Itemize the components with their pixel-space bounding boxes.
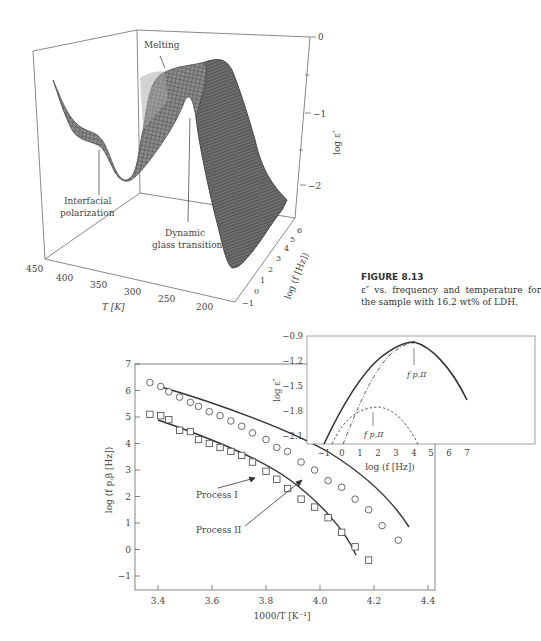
- z-tick: −2: [308, 181, 321, 191]
- data-point: [352, 544, 358, 550]
- data-point: [157, 383, 164, 390]
- data-point: [217, 412, 224, 419]
- z-axis-label: log ε″: [332, 129, 342, 155]
- data-point: [379, 522, 386, 529]
- svg-text:7: 7: [125, 359, 131, 369]
- figure-caption-text: ε″ vs. frequency and temperature for the…: [361, 284, 541, 308]
- svg-text:400: 400: [56, 273, 73, 283]
- annotation-dynamic: Dynamic: [165, 228, 205, 238]
- inset-y-ticks: −0.9 −1.2 −1.5 −1.8 −2.1: [282, 331, 303, 441]
- data-point: [176, 427, 182, 433]
- data-point: [298, 459, 305, 466]
- annotation-interfacial: Interfacial: [64, 196, 112, 206]
- svg-text:350: 350: [90, 280, 107, 290]
- inset-x-axis-label: log (f [Hz]): [365, 462, 415, 472]
- svg-text:300: 300: [124, 287, 141, 297]
- svg-text:−1.8: −1.8: [282, 406, 303, 416]
- inset-x-ticks: −1 0 1 2 3 4 5 6 7: [318, 448, 470, 458]
- svg-text:−1.5: −1.5: [282, 381, 303, 391]
- svg-text:6: 6: [125, 386, 131, 396]
- svg-text:200: 200: [196, 302, 213, 312]
- svg-text:3: 3: [125, 465, 131, 475]
- data-point: [365, 557, 371, 563]
- svg-text:3.8: 3.8: [259, 596, 274, 606]
- svg-text:3: 3: [276, 254, 281, 263]
- annotation-polarization: polarization: [60, 208, 115, 218]
- svg-text:4: 4: [411, 448, 416, 458]
- x-ticks: 3.4 3.6 3.8 4.0 4.2 4.4: [151, 596, 436, 606]
- svg-text:−2.1: −2.1: [282, 431, 303, 441]
- svg-text:4.4: 4.4: [421, 596, 436, 606]
- svg-text:4: 4: [125, 439, 131, 449]
- data-point: [263, 436, 270, 443]
- data-point: [249, 430, 256, 437]
- z-tick: 0: [318, 32, 324, 42]
- data-point: [206, 408, 213, 415]
- data-point: [274, 444, 281, 451]
- data-point: [217, 444, 223, 450]
- svg-text:450: 450: [26, 264, 43, 274]
- svg-text:−1: −1: [118, 571, 131, 581]
- label-process-2: Process II: [196, 525, 242, 535]
- svg-text:4: 4: [284, 244, 289, 253]
- data-point: [325, 515, 331, 521]
- svg-text:1: 1: [357, 448, 362, 458]
- data-point: [206, 440, 212, 446]
- svg-text:6: 6: [297, 226, 302, 235]
- svg-text:6: 6: [446, 448, 451, 458]
- t-axis-label: T [K]: [102, 302, 125, 312]
- figure-caption-label: FIGURE 8.13: [361, 272, 424, 282]
- data-point: [187, 399, 194, 406]
- data-point: [239, 452, 245, 458]
- data-point: [158, 412, 164, 418]
- svg-text:4.0: 4.0: [313, 596, 328, 606]
- data-point: [147, 411, 153, 417]
- svg-text:250: 250: [158, 294, 175, 304]
- f-axis-label: log (f [Hz]): [283, 251, 311, 301]
- inset-peak-label-2: f p,II: [363, 430, 384, 439]
- svg-text:−1.2: −1.2: [282, 356, 303, 366]
- svg-text:3.6: 3.6: [205, 596, 220, 606]
- surface-plot-3d: 0 −1 −2 log ε″ Melting Interfacial polar…: [0, 0, 540, 320]
- svg-text:3: 3: [393, 448, 398, 458]
- svg-text:−0.9: −0.9: [282, 331, 303, 341]
- svg-text:1: 1: [260, 276, 265, 285]
- data-point: [325, 477, 332, 484]
- svg-text:4.2: 4.2: [367, 596, 381, 606]
- svg-text:3.4: 3.4: [151, 596, 166, 606]
- svg-text:5: 5: [290, 235, 295, 244]
- svg-text:7: 7: [464, 448, 469, 458]
- x-axis-label: 1000/T [K⁻¹]: [254, 611, 311, 621]
- data-point: [365, 506, 372, 513]
- data-point: [284, 485, 290, 491]
- data-point: [249, 459, 255, 465]
- data-point: [147, 379, 154, 386]
- data-point: [195, 403, 202, 410]
- svg-text:−1: −1: [318, 448, 331, 458]
- svg-text:2: 2: [125, 492, 131, 502]
- data-point: [311, 504, 317, 510]
- data-point: [228, 448, 234, 454]
- data-point: [228, 418, 235, 425]
- svg-text:5: 5: [428, 448, 433, 458]
- data-point: [284, 448, 291, 455]
- svg-text:0: 0: [254, 287, 259, 296]
- inset-y-axis-label: log ε″: [272, 378, 282, 402]
- annotation-glass-transition: glass transition: [152, 240, 223, 250]
- data-point: [338, 484, 345, 491]
- svg-text:0: 0: [125, 545, 131, 555]
- z-tick: −1: [313, 109, 326, 119]
- svg-text:2: 2: [375, 448, 380, 458]
- inset-peak-label-1: f p,II: [406, 370, 427, 379]
- svg-text:2: 2: [268, 265, 273, 274]
- data-point: [395, 537, 402, 544]
- svg-text:−1: −1: [242, 299, 254, 308]
- data-point: [195, 436, 201, 442]
- svg-text:5: 5: [125, 412, 131, 422]
- y-axis-label: log (f p,β [Hz]): [104, 447, 114, 513]
- arrhenius-plot: 7 6 5 4 3 2 1 0 −1 3.4 3.6 3.8 4.0 4.2 4…: [0, 320, 539, 641]
- data-point: [166, 389, 173, 396]
- svg-text:1: 1: [125, 518, 131, 528]
- annotation-melting: Melting: [144, 40, 180, 50]
- data-point: [166, 416, 172, 422]
